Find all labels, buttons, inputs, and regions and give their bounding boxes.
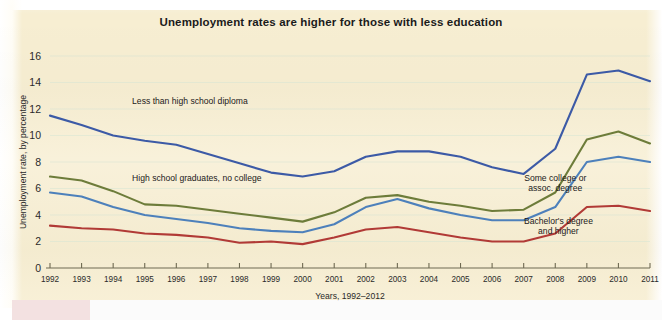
x-tick-label: 2001 bbox=[325, 275, 344, 284]
x-axis-title: Years, 1992–2012 bbox=[315, 291, 385, 301]
x-tick-label: 1994 bbox=[104, 275, 123, 284]
x-tick-label: 2000 bbox=[294, 275, 313, 284]
chart-figure: Unemployment rates are higher for those … bbox=[0, 0, 662, 320]
x-tick-label: 2008 bbox=[546, 275, 565, 284]
x-tick-label: 2003 bbox=[388, 275, 407, 284]
y-tick-label: 14 bbox=[29, 76, 41, 88]
y-axis-title: Unemployment rate, by percentage bbox=[18, 95, 28, 229]
y-tick-label: 16 bbox=[29, 50, 41, 62]
y-tick-label: 10 bbox=[29, 129, 41, 141]
x-tick-label: 2006 bbox=[483, 275, 502, 284]
x-tick-label: 1998 bbox=[230, 275, 249, 284]
series-annotation: Some college orassoc. degree bbox=[524, 173, 586, 193]
x-tick-label: 2005 bbox=[451, 275, 470, 284]
x-tick-label: 2007 bbox=[515, 275, 534, 284]
y-tick-label: 12 bbox=[29, 103, 41, 115]
y-tick-label: 4 bbox=[35, 209, 41, 221]
y-tick-label: 8 bbox=[35, 156, 41, 168]
line-chart-plot: 0246810121416199219931994199519961997199… bbox=[0, 0, 662, 320]
x-tick-label: 2011 bbox=[641, 275, 659, 284]
x-tick-label: 1995 bbox=[136, 275, 155, 284]
chart-title: Unemployment rates are higher for those … bbox=[0, 16, 662, 28]
x-tick-label: 1997 bbox=[199, 275, 218, 284]
x-tick-label: 2009 bbox=[578, 275, 597, 284]
series-annotation: Less than high school diploma bbox=[132, 96, 248, 106]
x-tick-label: 1999 bbox=[262, 275, 281, 284]
series-annotation: High school graduates, no college bbox=[132, 173, 262, 183]
x-tick-label: 2004 bbox=[420, 275, 439, 284]
x-tick-label: 2002 bbox=[357, 275, 376, 284]
x-tick-label: 1992 bbox=[41, 275, 60, 284]
y-tick-label: 2 bbox=[35, 235, 41, 247]
y-tick-label: 0 bbox=[35, 262, 41, 274]
series-line bbox=[50, 71, 650, 177]
y-tick-label: 6 bbox=[35, 182, 41, 194]
x-tick-label: 1993 bbox=[72, 275, 91, 284]
series-annotation: Bachelor's degreeand higher bbox=[524, 216, 593, 236]
x-tick-label: 2010 bbox=[609, 275, 628, 284]
x-tick-label: 1996 bbox=[167, 275, 186, 284]
